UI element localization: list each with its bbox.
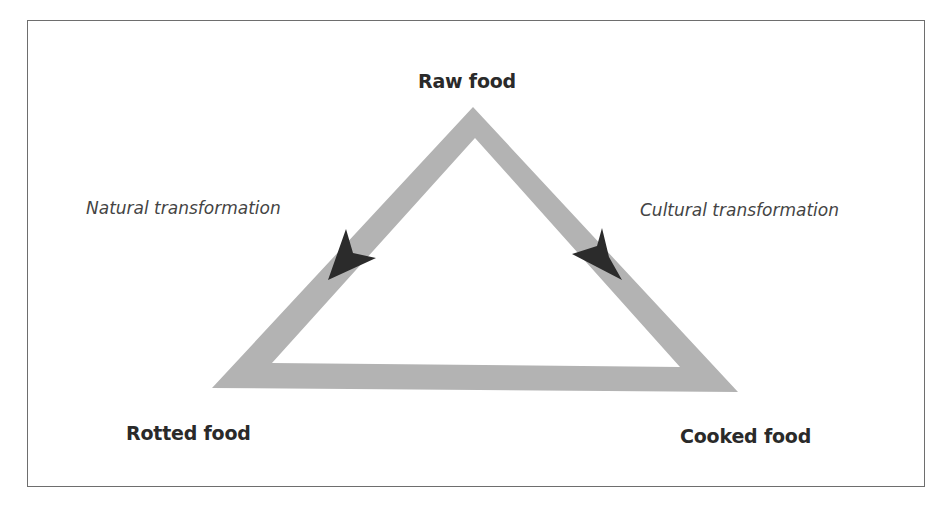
node-rotted-food: Rotted food bbox=[126, 422, 251, 444]
triangle-band bbox=[212, 107, 738, 392]
node-cooked-food: Cooked food bbox=[680, 425, 811, 447]
edge-cultural-transformation: Cultural transformation bbox=[640, 200, 839, 220]
edge-natural-transformation: Natural transformation bbox=[86, 198, 281, 218]
node-raw-food: Raw food bbox=[418, 70, 516, 92]
